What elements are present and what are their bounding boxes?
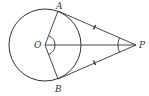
tangent-pb xyxy=(58,45,136,79)
tangent-circle-diagram: A B O P xyxy=(0,0,149,96)
diagram-svg: A B O P xyxy=(0,0,149,96)
tick-mark-pa xyxy=(94,25,96,30)
tick-mark-pb xyxy=(94,61,96,66)
segment-ob xyxy=(45,45,58,79)
label-p: P xyxy=(138,40,146,50)
segment-oa xyxy=(45,11,58,45)
label-b: B xyxy=(54,84,62,94)
label-o: O xyxy=(34,40,42,50)
label-a: A xyxy=(55,1,63,11)
tangent-pa xyxy=(58,11,136,45)
